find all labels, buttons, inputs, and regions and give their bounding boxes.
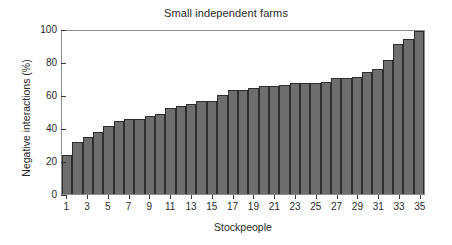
bar — [310, 83, 320, 194]
bar — [93, 132, 103, 194]
x-tick-label: 5 — [97, 202, 119, 212]
x-tick-mark — [337, 195, 338, 199]
x-tick-label: 1 — [55, 202, 77, 212]
x-tick-mark — [129, 195, 130, 199]
x-tick-label: 13 — [180, 202, 202, 212]
bar — [279, 85, 289, 194]
x-tick-label: 33 — [388, 202, 410, 212]
x-tick-mark — [191, 195, 192, 199]
x-tick-mark — [357, 195, 358, 199]
bar — [114, 121, 124, 194]
x-tick-mark — [399, 195, 400, 199]
bar — [341, 78, 351, 194]
bar — [145, 116, 155, 194]
bar — [290, 83, 300, 194]
x-tick-label: 29 — [346, 202, 368, 212]
bar — [103, 126, 113, 194]
x-tick-label: 7 — [118, 202, 140, 212]
bar — [83, 137, 93, 194]
bar — [372, 69, 382, 195]
bar — [331, 78, 341, 194]
x-tick-mark — [316, 195, 317, 199]
x-tick-label: 11 — [159, 202, 181, 212]
x-tick-mark — [66, 195, 67, 199]
bar — [207, 101, 217, 194]
bar — [165, 108, 175, 194]
y-tick-label: 0 — [17, 190, 57, 200]
bar — [72, 142, 82, 194]
bar — [124, 119, 134, 194]
x-tick-label: 21 — [263, 202, 285, 212]
y-tick-mark — [61, 162, 66, 163]
x-tick-label: 15 — [201, 202, 223, 212]
x-tick-label: 35 — [409, 202, 431, 212]
x-tick-label: 23 — [284, 202, 306, 212]
y-tick-mark — [61, 96, 66, 97]
y-tick-label: 60 — [17, 91, 57, 101]
x-tick-mark — [108, 195, 109, 199]
x-tick-label: 27 — [326, 202, 348, 212]
x-tick-mark — [212, 195, 213, 199]
chart-title: Small independent farms — [0, 7, 452, 19]
y-tick-label: 100 — [17, 25, 57, 35]
bar — [238, 90, 248, 194]
x-tick-mark — [149, 195, 150, 199]
x-tick-mark — [378, 195, 379, 199]
bar — [393, 44, 403, 194]
bar-series — [62, 31, 424, 194]
x-tick-label: 3 — [76, 202, 98, 212]
bar — [217, 95, 227, 194]
y-tick-mark — [61, 129, 66, 130]
bar — [383, 60, 393, 194]
bar — [403, 39, 413, 194]
y-tick-label: 80 — [17, 58, 57, 68]
x-tick-mark — [233, 195, 234, 199]
x-tick-mark — [253, 195, 254, 199]
y-tick-label: 20 — [17, 157, 57, 167]
y-tick-label: 40 — [17, 124, 57, 134]
bar — [248, 88, 258, 194]
bar — [300, 83, 310, 194]
x-tick-mark — [274, 195, 275, 199]
x-tick-label: 17 — [222, 202, 244, 212]
bar — [414, 31, 424, 194]
x-axis-label: Stockpeople — [61, 221, 425, 233]
plot-area — [61, 30, 425, 195]
x-tick-label: 19 — [242, 202, 264, 212]
bar — [186, 104, 196, 194]
bar — [176, 106, 186, 194]
x-tick-label: 9 — [138, 202, 160, 212]
x-tick-label: 25 — [305, 202, 327, 212]
y-tick-mark — [61, 30, 66, 31]
bar — [259, 86, 269, 194]
bar — [196, 101, 206, 194]
chart-figure: Small independent farms Negative interac… — [0, 0, 452, 245]
bar — [269, 86, 279, 194]
y-tick-mark — [61, 63, 66, 64]
x-tick-mark — [420, 195, 421, 199]
x-tick-mark — [87, 195, 88, 199]
bar — [155, 114, 165, 194]
x-tick-label: 31 — [367, 202, 389, 212]
bar — [352, 77, 362, 194]
bar — [362, 72, 372, 194]
x-tick-mark — [170, 195, 171, 199]
bar — [134, 119, 144, 194]
x-tick-mark — [295, 195, 296, 199]
bar — [228, 90, 238, 194]
bar — [62, 155, 72, 194]
bar — [321, 82, 331, 194]
